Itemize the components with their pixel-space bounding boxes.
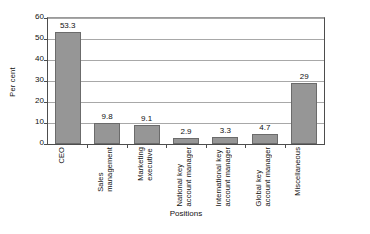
bar [252, 134, 278, 144]
bar-value-label: 53.3 [48, 21, 88, 30]
y-axis-tick-label: 40 [24, 55, 44, 63]
bar [94, 123, 120, 144]
x-axis-category-label: National key account manager [176, 147, 193, 206]
gridline [48, 102, 324, 103]
x-axis-category-label: Global key account manager [255, 147, 272, 206]
bar-value-label: 4.7 [245, 123, 285, 132]
y-axis-tick-mark [44, 39, 48, 40]
y-axis-tick-mark [44, 81, 48, 82]
bar-value-label: 3.3 [205, 126, 245, 135]
x-axis-category-labels: CEOSales managementMarketing executiveNa… [47, 147, 325, 217]
x-axis-category-label: Miscellaneous [294, 147, 303, 196]
y-axis-tick-mark [44, 123, 48, 124]
y-axis-title: Per cent [8, 52, 17, 112]
gridline [48, 18, 324, 19]
y-axis-tick-mark [44, 60, 48, 61]
x-axis-title: Positions [47, 209, 325, 218]
bar [134, 125, 160, 144]
y-axis-tick-label: 30 [24, 76, 44, 84]
gridline [48, 81, 324, 82]
bar [291, 83, 317, 144]
x-axis-category-label: CEO [58, 147, 67, 164]
y-axis-tick-label: 10 [24, 118, 44, 126]
y-axis-tick-mark [44, 144, 48, 145]
y-axis-tick-label: 50 [24, 34, 44, 42]
bar [212, 137, 238, 144]
y-axis-tick-label: 20 [24, 97, 44, 105]
gridline [48, 39, 324, 40]
y-axis-tick-mark [44, 18, 48, 19]
y-axis-tick-label: 60 [24, 13, 44, 21]
y-axis-tick-mark [44, 102, 48, 103]
bar-value-label: 2.9 [166, 127, 206, 136]
bar-value-label: 9.1 [127, 114, 167, 123]
plot-area: 53.39.89.12.93.34.729 [47, 17, 325, 145]
bar [55, 32, 81, 144]
bar-value-label: 29 [284, 72, 324, 81]
gridline [48, 60, 324, 61]
x-axis-category-label: Marketing executive [137, 147, 154, 181]
y-axis-tick-labels: 6050403020100 [24, 17, 44, 143]
bar-value-label: 9.8 [87, 112, 127, 121]
x-axis-category-label: International key account manager [215, 147, 232, 206]
y-axis-tick-label: 0 [24, 139, 44, 147]
bar [173, 138, 199, 144]
bar-chart-figure: Per cent 6050403020100 53.39.89.12.93.34… [0, 0, 370, 234]
x-axis-category-label: Sales management [97, 147, 114, 192]
